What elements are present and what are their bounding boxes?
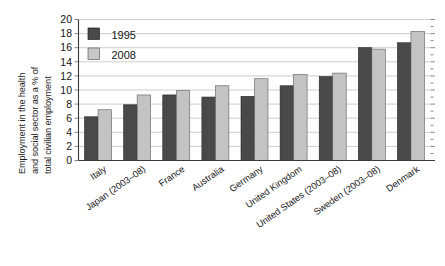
- x-axis-label-denmark: Denmark: [384, 164, 421, 194]
- plot-area: 02468101214161820 ItalyJapan (2003–08)Fr…: [0, 0, 445, 266]
- bar-united-kingdom-2008: [294, 74, 307, 160]
- y-tick-label: 0: [66, 154, 72, 166]
- bar-france-1995: [163, 95, 176, 161]
- y-tick-label: 4: [66, 126, 72, 138]
- bar-denmark-1995: [397, 43, 410, 161]
- y-tick-label: 2: [66, 140, 72, 152]
- y-tick-marks: [75, 20, 79, 161]
- y-tick-label: 16: [60, 41, 72, 53]
- bar-denmark-2008: [411, 31, 424, 160]
- legend-label-2008: 2008: [112, 49, 136, 61]
- bar-japan-2003-08-2008: [137, 95, 150, 161]
- bar-sweden-2003-08-1995: [358, 48, 371, 161]
- bar-australia-1995: [202, 97, 215, 160]
- bar-italy-1995: [85, 117, 98, 161]
- y-tick-label: 8: [66, 98, 72, 110]
- bar-italy-2008: [98, 110, 111, 161]
- bar-australia-2008: [215, 86, 228, 161]
- y-tick-label: 12: [60, 70, 72, 82]
- x-axis-label-sweden-2003-08: Sweden (2003–08): [312, 164, 382, 217]
- right-tick-marks: [431, 20, 436, 161]
- bar-united-states-2003-08-1995: [319, 77, 332, 161]
- x-axis-label-italy: Italy: [88, 164, 108, 182]
- y-tick-label: 18: [60, 27, 72, 39]
- bar-united-kingdom-1995: [280, 86, 293, 161]
- y-tick-label: 20: [60, 13, 72, 25]
- bar-germany-2008: [255, 79, 268, 161]
- legend-swatch-2008: [88, 48, 100, 60]
- bar-japan-2003-08-1995: [124, 105, 137, 161]
- legend-label-1995: 1995: [112, 29, 136, 41]
- chart-canvas: 02468101214161820 ItalyJapan (2003–08)Fr…: [0, 0, 445, 266]
- y-tick-label: 14: [60, 56, 72, 68]
- bar-chart: Employment in the health and social sect…: [0, 0, 445, 266]
- y-tick-label: 10: [60, 84, 72, 96]
- y-tick-labels: 02468101214161820: [60, 13, 72, 166]
- legend-swatch-1995: [88, 28, 100, 40]
- x-axis-label-australia: Australia: [190, 163, 226, 192]
- x-axis-label-france: France: [157, 164, 186, 189]
- bar-germany-1995: [241, 96, 254, 160]
- bar-sweden-2003-08-2008: [372, 49, 385, 160]
- y-tick-label: 6: [66, 112, 72, 124]
- category-labels: ItalyJapan (2003–08)FranceAustraliaGerma…: [84, 163, 421, 229]
- bar-united-states-2003-08-2008: [333, 73, 346, 160]
- x-axis-label-germany: Germany: [228, 164, 265, 194]
- bar-france-2008: [176, 91, 189, 161]
- chart-legend: 19952008: [88, 28, 136, 61]
